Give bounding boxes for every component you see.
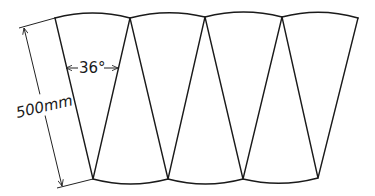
angle-dimension: 36°	[66, 59, 118, 77]
fold-lines	[55, 17, 358, 179]
length-dimension: 500mm	[12, 18, 93, 188]
angle-label: 36°	[79, 59, 106, 77]
top-arcs	[55, 12, 358, 18]
bottom-arcs	[93, 178, 318, 184]
cone-development-diagram: 500mm 36°	[0, 0, 375, 196]
